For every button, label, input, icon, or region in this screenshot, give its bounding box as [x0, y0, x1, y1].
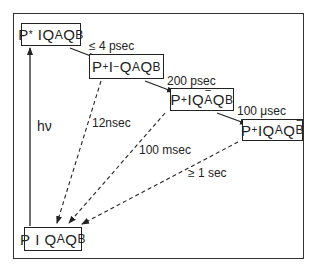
- state-qb-reduced: P+IQAQB: [242, 119, 303, 141]
- forward-time-3-label: 100 μsec: [237, 104, 286, 118]
- recombination-arrow-12nsec: [57, 81, 101, 223]
- state-excited: P* IQAQB: [21, 23, 81, 46]
- recombination-time-1sec-label: ≥ 1 sec: [188, 166, 227, 180]
- state-ground: P I QAQB: [24, 227, 82, 251]
- state-qa-reduced: P+IQAQB: [170, 88, 234, 111]
- excitation-label: hν: [37, 118, 52, 134]
- state-pheophytin-reduced: P+I−QAQB: [89, 54, 164, 79]
- recombination-time-100msec-label: 100 msec: [139, 143, 191, 157]
- recombination-time-12nsec-label: 12nsec: [92, 116, 131, 130]
- forward-time-1-label: ≤ 4 psec: [89, 39, 134, 53]
- forward-time-2-label: 200 psec: [167, 74, 216, 88]
